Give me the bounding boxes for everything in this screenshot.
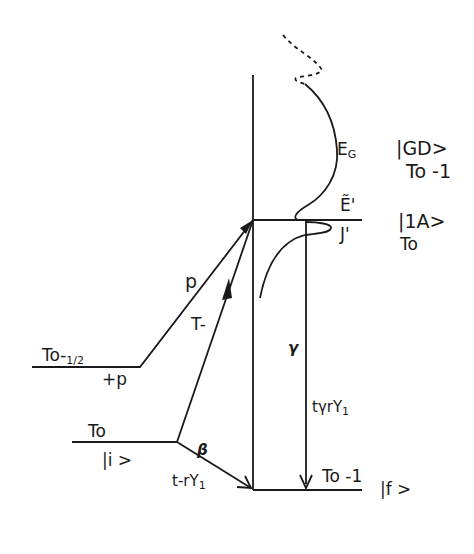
analog-isospin-label: To [400,236,418,253]
gd-strength-curve [295,84,337,220]
t-gamma-label: tγrY1 [312,400,349,417]
gd-isospin-label: To -1 [406,162,451,181]
direct-transition-main: t-rY [172,472,199,490]
direct-transition-label: t-rY1 [172,474,206,491]
initial-energy-label: To [88,423,106,440]
gd-state-label: |GD> [396,139,448,158]
j-resonance-curve [260,222,331,298]
diagram-lines [0,0,474,554]
beta-label: β [197,443,208,458]
j-prime-label: J' [340,226,350,243]
gd-energy-sub: G [348,148,357,161]
gd-energy-label: EG [337,141,356,160]
t-minus-transition-line [177,220,253,442]
gamma-label: γ [288,341,298,356]
level-diagram: To-1/2 +p To |i > p T- β t-rY1 γ tγrY1 E… [0,0,474,554]
plus-p-label: +p [102,371,127,388]
t-minus-label: T- [191,316,206,333]
gd-dashed-tail [283,35,322,84]
half-fraction: 1/2 [66,354,84,367]
final-state-label: |f > [380,481,411,498]
t-gamma-sub: 1 [342,405,349,418]
half-level-label: To-1/2 [42,347,84,366]
t-minus-arrowhead [222,278,232,300]
half-level-energy: To- [42,345,66,365]
analog-state-label: |1A> [398,212,445,231]
t-gamma-main: tγrY [312,398,342,416]
p-transition-label: p [185,272,197,291]
analog-energy-label: Ẽ' [340,197,355,214]
direct-transition-sub: 1 [199,479,206,492]
gd-energy-main: E [337,139,348,159]
initial-state-label: |i > [102,452,132,469]
final-energy-label: To -1 [322,468,362,485]
